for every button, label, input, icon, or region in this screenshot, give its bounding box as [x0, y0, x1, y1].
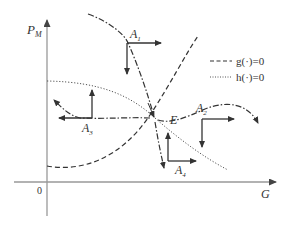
- unstable-arm-left: [54, 100, 150, 118]
- h-curve: [47, 81, 228, 170]
- phase-diagram: PM G 0 A1 A2 A3 A4 E g(·)=0 h(·)=0: [0, 0, 285, 229]
- unstable-arm-lower: [155, 122, 164, 168]
- label-a2: A2: [195, 101, 207, 117]
- label-a4: A4: [174, 163, 186, 179]
- g-curve: [47, 36, 198, 167]
- legend-g-label: g(·)=0: [236, 55, 265, 68]
- origin-label: 0: [37, 185, 42, 196]
- label-e: E: [169, 113, 178, 127]
- stable-arm-upper: [88, 14, 153, 113]
- label-a3: A3: [81, 121, 93, 137]
- x-axis-label: G: [261, 187, 270, 201]
- y-axis-label: PM: [26, 22, 43, 39]
- legend: g(·)=0 h(·)=0: [210, 55, 265, 84]
- label-a1: A1: [129, 27, 141, 43]
- legend-h-label: h(·)=0: [236, 71, 265, 84]
